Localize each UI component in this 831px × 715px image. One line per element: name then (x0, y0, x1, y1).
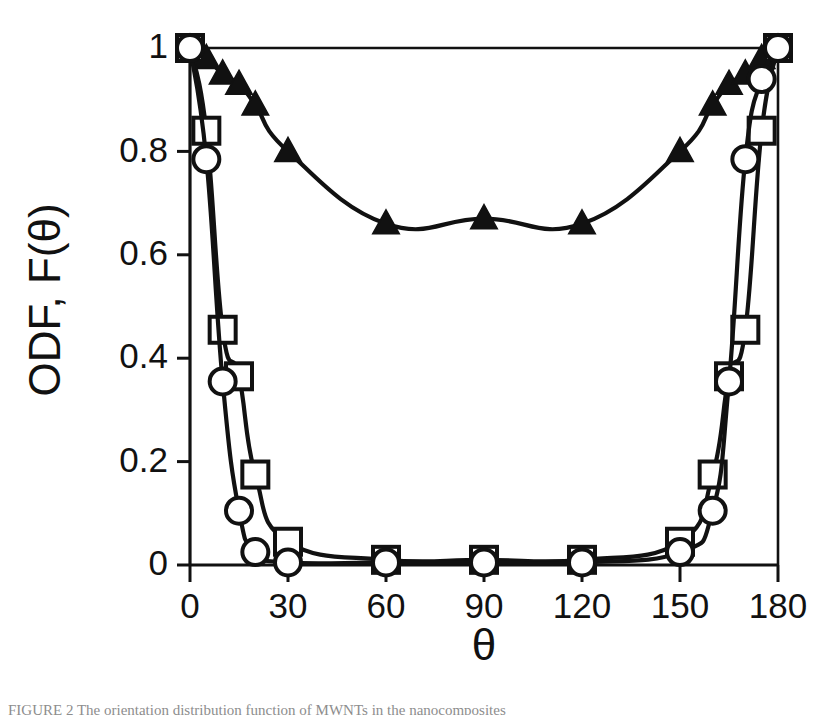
y-tick-label-1: 1 (149, 26, 168, 65)
marker-circle (275, 549, 301, 575)
y-tick-label-0-2: 0.2 (119, 440, 168, 479)
marker-circle (226, 498, 252, 524)
series-layer (177, 34, 792, 575)
figure-caption: FIGURE 2 The orientation distribution fu… (8, 701, 828, 715)
x-tick-label-90: 90 (465, 586, 504, 625)
marker-circle (716, 368, 742, 394)
marker-circle (471, 549, 497, 575)
marker-square (749, 118, 775, 144)
marker-circle (210, 368, 236, 394)
marker-square (732, 317, 758, 343)
x-tick-label-60: 60 (367, 586, 406, 625)
marker-circle (700, 498, 726, 524)
y-axis-title: ODF, F(θ) (20, 203, 69, 396)
marker-circle (732, 146, 758, 172)
y-tick-label-0: 0 (149, 543, 168, 582)
x-axis-title: θ (472, 620, 496, 669)
marker-circle (569, 549, 595, 575)
series-line-open-circle-series (190, 48, 778, 563)
marker-circle (242, 539, 268, 565)
marker-circle (667, 539, 693, 565)
x-tick-label-30: 30 (269, 586, 308, 625)
marker-circle (765, 35, 791, 61)
x-tick-label-0: 0 (180, 586, 199, 625)
marker-triangle (471, 205, 498, 229)
series-open-circle-series (177, 35, 791, 575)
x-tick-label-120: 120 (553, 586, 611, 625)
marker-circle (373, 549, 399, 575)
series-line-filled-triangle-series (190, 48, 778, 229)
odf-line-chart: 0 0.2 0.4 0.6 0.8 1 0 30 60 90 120 150 1… (0, 0, 831, 690)
x-tick-label-180: 180 (749, 586, 807, 625)
x-axis-tick-labels: 0 30 60 90 120 150 180 (180, 586, 807, 625)
x-tick-label-150: 150 (651, 586, 709, 625)
marker-circle (193, 146, 219, 172)
y-axis-ticks (177, 48, 190, 565)
y-tick-label-0-6: 0.6 (119, 233, 168, 272)
series-filled-triangle-series (177, 34, 792, 234)
marker-square (210, 317, 236, 343)
marker-circle (177, 35, 203, 61)
plot-frame (190, 48, 778, 565)
y-tick-label-0-8: 0.8 (119, 130, 168, 169)
marker-circle (749, 66, 775, 92)
series-line-open-square-series (190, 48, 778, 562)
y-tick-label-0-4: 0.4 (119, 336, 168, 375)
marker-square (242, 462, 268, 488)
y-axis-tick-labels: 0 0.2 0.4 0.6 0.8 1 (119, 26, 168, 582)
